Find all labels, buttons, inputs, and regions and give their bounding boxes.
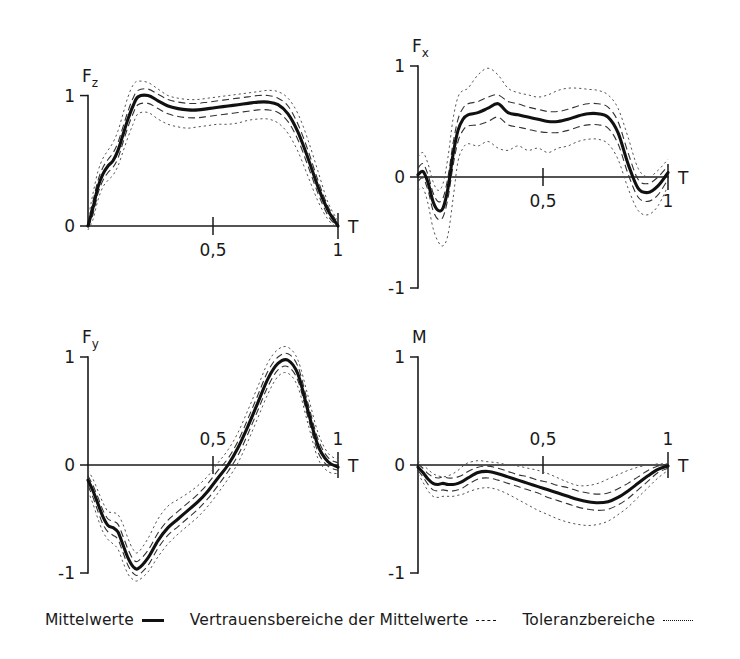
- legend-swatch-dotted: [663, 620, 693, 621]
- y-axis-label: Fy: [82, 327, 99, 351]
- chart-svg-m: -1010,51TM: [370, 323, 715, 598]
- y-tick-label: 0: [64, 455, 75, 475]
- x-axis-label: T: [677, 456, 689, 476]
- legend-entry: Mittelwerte: [45, 611, 164, 629]
- chart-svg-fz: 010,51TFz: [30, 20, 360, 300]
- series-line: [88, 81, 338, 221]
- x-tick-label: 0,5: [199, 240, 226, 260]
- y-tick-label: 1: [394, 347, 405, 367]
- chart-panel-fx: -1010,51TFx: [370, 20, 715, 340]
- x-tick-label: 1: [663, 429, 674, 449]
- y-axis-label: M: [412, 327, 427, 347]
- legend-entry: Vertrauensbereiche der Mittelwerte: [190, 611, 497, 629]
- legend-label: Toleranzbereiche: [522, 611, 655, 629]
- y-tick-label: 1: [64, 86, 75, 106]
- y-tick-label: 1: [64, 347, 75, 367]
- x-tick-label: 1: [333, 240, 344, 260]
- chart-svg-fx: -1010,51TFx: [370, 20, 715, 340]
- y-tick-label: 1: [394, 56, 405, 76]
- legend-swatch-solid: [142, 619, 164, 622]
- y-axis-label: Fz: [82, 66, 98, 90]
- legend-entry: Toleranzbereiche: [522, 611, 693, 629]
- y-tick-label: 0: [394, 167, 405, 187]
- figure-legend: MittelwerteVertrauensbereiche der Mittel…: [8, 605, 730, 635]
- chart-svg-fy: -1010,51TFy: [30, 323, 360, 598]
- x-tick-label: 0,5: [529, 191, 556, 211]
- figure-frame: 010,51TFz -1010,51TFx -1010,51TFy -1010,…: [8, 8, 730, 649]
- y-tick-label: -1: [388, 278, 405, 298]
- y-tick-label: 0: [394, 455, 405, 475]
- chart-panel-fz: 010,51TFz: [30, 20, 360, 300]
- series-line: [88, 95, 338, 226]
- chart-panel-m: -1010,51TM: [370, 323, 715, 598]
- y-axis-label: Fx: [412, 36, 429, 60]
- y-tick-label: 0: [64, 216, 75, 236]
- series-line: [418, 470, 668, 525]
- y-tick-label: -1: [58, 563, 75, 583]
- x-tick-label: 1: [333, 429, 344, 449]
- y-tick-label: -1: [388, 563, 405, 583]
- legend-label: Mittelwerte: [45, 611, 134, 629]
- panel-grid: 010,51TFz -1010,51TFx -1010,51TFy -1010,…: [8, 8, 730, 649]
- legend-swatch-dashed: [476, 620, 496, 621]
- chart-panel-fy: -1010,51TFy: [30, 323, 360, 598]
- x-axis-label: T: [347, 456, 359, 476]
- x-tick-label: 1: [663, 191, 674, 211]
- x-axis-label: T: [677, 168, 689, 188]
- x-axis-label: T: [347, 217, 359, 237]
- x-tick-label: 0,5: [199, 429, 226, 449]
- x-tick-label: 0,5: [529, 429, 556, 449]
- legend-label: Vertrauensbereiche der Mittelwerte: [190, 611, 469, 629]
